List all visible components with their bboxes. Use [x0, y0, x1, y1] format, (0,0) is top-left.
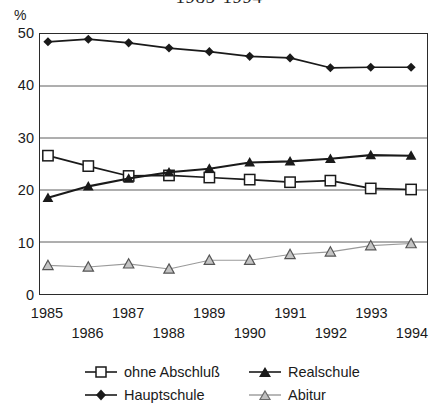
y-axis-tick-50: 50	[2, 26, 34, 41]
y-axis-tick-30: 30	[2, 131, 34, 146]
plot-area	[39, 33, 428, 295]
legend-marker-open-square-icon	[84, 364, 118, 380]
line-chart-figure: 1985-1994 % 50403020100 1985198619871988…	[0, 0, 438, 414]
plot-svg	[40, 34, 427, 294]
x-axis-tick-1986: 1986	[65, 326, 111, 341]
legend-entry-hauptschule[interactable]: Hauptschule	[84, 385, 205, 405]
x-axis-tick-1988: 1988	[146, 326, 192, 341]
legend-marker-filled-triangle-icon	[248, 364, 282, 380]
legend-entry-realschule[interactable]: Realschule	[248, 362, 360, 382]
y-axis-tick-0: 0	[2, 288, 34, 303]
legend-entry-abitur[interactable]: Abitur	[248, 385, 326, 405]
x-axis-tick-1991: 1991	[267, 306, 313, 321]
legend-entry-ohne-abschluss[interactable]: ohne Abschluß	[84, 362, 220, 382]
legend-label-hauptschule: Hauptschule	[118, 388, 205, 403]
legend-label-realschule: Realschule	[282, 365, 360, 380]
legend-marker-filled-diamond-icon	[84, 387, 118, 403]
x-axis-tick-1985: 1985	[24, 306, 70, 321]
x-axis-tick-1989: 1989	[186, 306, 232, 321]
y-axis-tick-20: 20	[2, 183, 34, 198]
y-axis-tick-labels: 50403020100	[0, 33, 34, 295]
legend-label-ohne-abschluss: ohne Abschluß	[118, 365, 220, 380]
chart-legend: ohne Abschluß Hauptschule Realschule Abi…	[84, 362, 384, 408]
y-axis-tick-40: 40	[2, 78, 34, 93]
series-1	[43, 35, 415, 73]
legend-label-abitur: Abitur	[282, 388, 326, 403]
chart-title: 1985-1994	[0, 0, 438, 8]
x-axis-tick-1994: 1994	[389, 326, 435, 341]
legend-marker-open-triangle-icon	[248, 387, 282, 403]
x-axis-tick-labels: 1985198619871988198919901991199219931994	[39, 298, 428, 342]
y-axis-unit-label: %	[14, 8, 26, 22]
series-3	[43, 238, 416, 273]
y-axis-tick-10: 10	[2, 236, 34, 251]
x-axis-tick-1987: 1987	[105, 306, 151, 321]
x-axis-tick-1993: 1993	[348, 306, 394, 321]
series-2	[43, 150, 417, 202]
x-axis-tick-1992: 1992	[308, 326, 354, 341]
x-axis-tick-1990: 1990	[227, 326, 273, 341]
